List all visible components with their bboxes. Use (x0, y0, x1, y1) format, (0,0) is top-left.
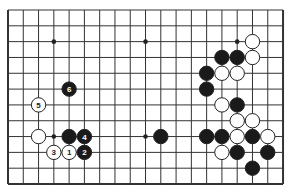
white-stone: 1 (62, 145, 76, 159)
black-stone (245, 129, 259, 143)
star-point-icon (52, 134, 57, 139)
black-stone (199, 82, 213, 96)
white-stone-icon (215, 98, 229, 112)
black-stone (261, 145, 275, 159)
black-stone (230, 98, 244, 112)
move-number-label: 5 (36, 101, 41, 110)
white-stone-icon (245, 114, 259, 128)
white-stone (230, 66, 244, 80)
star-point-icon (235, 39, 240, 44)
star-point-icon (52, 39, 57, 44)
star-point-icon (143, 134, 148, 139)
go-board-diagram: 654312 (0, 0, 289, 193)
white-stone-icon (261, 129, 275, 143)
black-stone (230, 50, 244, 64)
black-stone-icon (199, 129, 213, 143)
black-stone (154, 129, 168, 143)
black-stone (245, 161, 259, 175)
black-stone (199, 66, 213, 80)
white-stone-icon (215, 66, 229, 80)
black-stone-icon (154, 129, 168, 143)
white-stone-icon (230, 129, 244, 143)
white-stone-icon (245, 50, 259, 64)
black-stone: 6 (62, 82, 76, 96)
white-stone (245, 50, 259, 64)
white-stone: 5 (31, 98, 45, 112)
white-stone (215, 145, 229, 159)
white-stone-icon (215, 145, 229, 159)
black-stone-icon (215, 50, 229, 64)
white-stone-icon (31, 129, 45, 143)
star-point-icon (143, 39, 148, 44)
move-number-label: 1 (67, 148, 72, 157)
move-number-label: 2 (82, 148, 87, 157)
move-number-label: 6 (67, 85, 72, 94)
black-stone-icon (230, 98, 244, 112)
move-number-label: 4 (82, 133, 87, 142)
black-stone: 2 (77, 145, 91, 159)
white-stone-icon (230, 114, 244, 128)
white-stone (215, 66, 229, 80)
black-stone-icon (261, 145, 275, 159)
black-stone-icon (245, 161, 259, 175)
white-stone: 3 (47, 145, 61, 159)
black-stone-icon (245, 129, 259, 143)
black-stone (62, 129, 76, 143)
black-stone: 4 (77, 129, 91, 143)
black-stone-icon (199, 66, 213, 80)
white-stone (215, 98, 229, 112)
white-stone-icon (245, 34, 259, 48)
white-stone (245, 114, 259, 128)
black-stone (215, 50, 229, 64)
white-stone-icon (230, 66, 244, 80)
white-stone (31, 129, 45, 143)
black-stone (230, 145, 244, 159)
black-stone-icon (230, 145, 244, 159)
black-stone (199, 129, 213, 143)
black-stone (215, 129, 229, 143)
black-stone-icon (62, 129, 76, 143)
black-stone-icon (215, 129, 229, 143)
white-stone (261, 129, 275, 143)
black-stone-icon (199, 82, 213, 96)
black-stone-icon (230, 50, 244, 64)
white-stone (230, 114, 244, 128)
white-stone (230, 129, 244, 143)
move-number-label: 3 (52, 148, 57, 157)
white-stone (245, 34, 259, 48)
